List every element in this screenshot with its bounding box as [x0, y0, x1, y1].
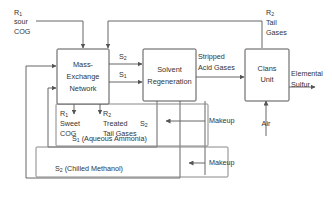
men-label-line3: Network: [69, 84, 96, 93]
flow-diagram-canvas: Mass- Exchange Network Solvent Regenerat…: [0, 0, 332, 199]
label-lean-s2-top: S2: [119, 52, 127, 61]
label-sour-cog-line2: sour: [14, 17, 29, 26]
line-tail-gases-feed: [108, 21, 262, 48]
label-treated-tail-gases-symbol: R2: [103, 109, 111, 118]
label-tail-gases-line3: Gases: [266, 28, 287, 37]
claus-label-line2: Unit: [260, 75, 273, 84]
label-stripped-acid-gases-line2: Acid Gases: [198, 63, 235, 72]
label-treated-tail-gases-line2: Treated: [103, 119, 128, 128]
unit-box-solvent-regeneration[interactable]: [143, 49, 196, 101]
label-elemental-sulfur-line1: Elemental: [291, 69, 323, 78]
regen-label-line2: Regeneration: [147, 77, 191, 86]
label-makeup-upper: Makeup: [209, 116, 235, 125]
label-group-s2: S2(Chilled Methanol): [55, 164, 123, 173]
label-group-s1: S1(Aqueous Ammonia): [72, 134, 147, 143]
label-sour-cog-line3: COG: [14, 27, 31, 36]
label-lean-s1-bottom: S1: [119, 70, 127, 79]
regen-label-line1: Solvent: [157, 65, 182, 74]
label-sour-cog-symbol: R1: [14, 8, 22, 17]
label-tail-gases-line2: Tail: [266, 18, 277, 27]
label-elemental-sulfur-line2: Sulfur: [291, 80, 310, 89]
men-label-line1: Mass-: [73, 60, 94, 69]
label-sweet-cog-line2: Sweet: [60, 119, 80, 128]
claus-label-line1: Clans: [258, 64, 277, 73]
line-sour-cog-feed: [36, 21, 83, 48]
process-flow-diagram: Mass- Exchange Network Solvent Regenerat…: [0, 0, 332, 199]
label-stripped-acid-gases-line1: Stripped: [198, 52, 225, 61]
label-sweet-cog-symbol: R1: [60, 109, 68, 118]
label-tail-gases-symbol: R2: [266, 8, 274, 17]
label-makeup-lower: Makeup: [209, 158, 235, 167]
label-recycle-s2-mid: S2: [140, 119, 148, 128]
label-air: Air: [262, 119, 271, 128]
men-label-line2: Exchange: [67, 72, 100, 81]
